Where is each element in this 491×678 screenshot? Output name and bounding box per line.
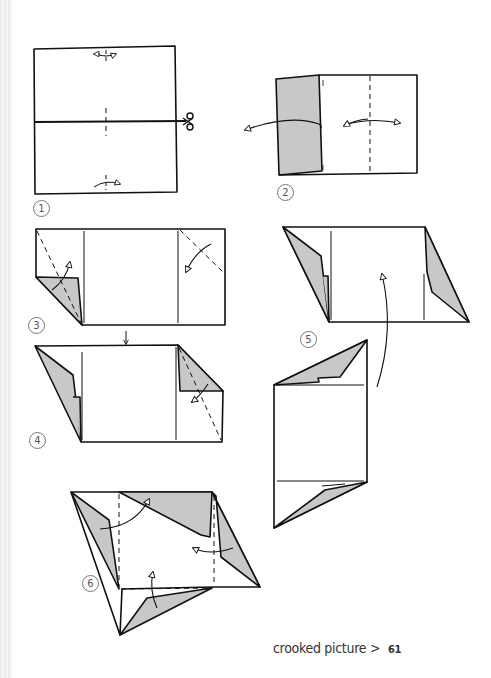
step-3-diagram: [36, 229, 225, 344]
rotated-diagram: [274, 340, 367, 528]
step-number-4: 4: [29, 432, 46, 449]
step-number-1: 1: [33, 200, 50, 217]
page-number: 61: [388, 643, 401, 656]
step-number-3: 3: [28, 317, 45, 334]
step-5-diagram: [283, 227, 469, 387]
origami-diagram: [0, 0, 491, 678]
step-number-5: 5: [300, 331, 317, 348]
step-1-diagram: [34, 46, 193, 194]
page-footer: crooked picture > 61: [273, 640, 401, 656]
step-number-2: 2: [277, 184, 294, 201]
step-6-diagram: [71, 492, 260, 635]
page-separator: >: [370, 640, 380, 656]
step-2-diagram: [245, 75, 417, 175]
step-4-diagram: [35, 345, 223, 442]
page-title: crooked picture: [273, 640, 366, 656]
step-number-6: 6: [82, 575, 99, 592]
